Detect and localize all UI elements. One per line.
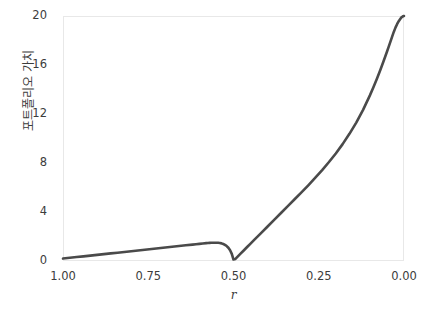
x-tick-label: 0.00 <box>391 271 417 283</box>
plot-area <box>63 16 404 261</box>
y-tick-label: 0 <box>40 255 47 267</box>
x-tick-label: 1.00 <box>50 271 76 283</box>
y-tick-label: 4 <box>40 206 47 218</box>
y-axis-label: 포트폴리오 가치 <box>19 35 36 147</box>
series-line-portfolio-value <box>63 16 404 260</box>
y-tick-label: 8 <box>40 157 47 169</box>
x-tick-label: 0.25 <box>306 271 332 283</box>
x-tick-label: 0.75 <box>135 271 161 283</box>
x-axis-label: r <box>63 288 404 302</box>
x-axis-tick-labels: 1.000.750.500.250.00 <box>63 271 404 287</box>
portfolio-value-curve <box>63 16 404 261</box>
y-tick-label: 20 <box>32 10 47 22</box>
x-tick-label: 0.50 <box>221 271 247 283</box>
chart-figure: 048121620 포트폴리오 가치 1.000.750.500.250.00 … <box>0 0 435 314</box>
